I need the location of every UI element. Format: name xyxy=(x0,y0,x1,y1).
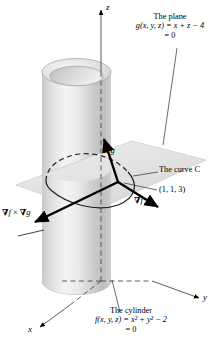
axis-label-z: z xyxy=(106,2,110,12)
cylinder-caption-line1: The cylinder xyxy=(58,306,204,315)
cylinder-caption: The cylinder f(x, y, z) = x² + y² − 2 = … xyxy=(58,306,204,334)
cross-vector-guide xyxy=(18,230,44,236)
point-coordinate-label: (1, 1, 3) xyxy=(159,185,185,194)
cylinder-caption-line2: f(x, y, z) = x² + y² − 2 xyxy=(58,315,204,324)
plane-caption-line1: The plane xyxy=(118,12,222,21)
plane-caption-line3: = 0 xyxy=(118,31,222,40)
axis-label-y: y xyxy=(203,292,207,302)
cylinder-caption-line3: = 0 xyxy=(58,325,204,334)
plane-caption: The plane g(x, y, z) = x + z − 4 = 0 xyxy=(118,12,222,40)
vector-label-cross-product: ∇f × ∇g xyxy=(2,208,30,218)
vector-label-grad-g: ∇g xyxy=(104,146,115,156)
plane-caption-line2: g(x, y, z) = x + z − 4 xyxy=(118,21,222,30)
curve-c-label: The curve C xyxy=(159,165,200,174)
vector-label-grad-f: ∇f xyxy=(134,196,143,206)
axis-label-x: x xyxy=(28,324,32,334)
